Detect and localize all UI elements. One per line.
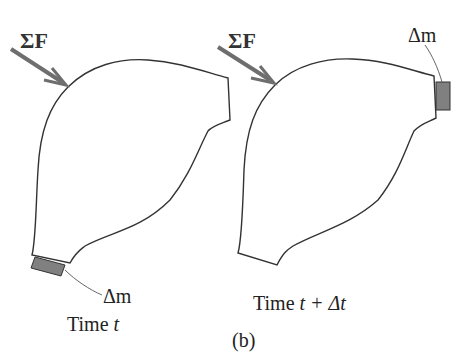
mass-label-left-text: Δm [103,285,131,307]
control-volume-diagram [0,0,467,360]
mass-leader-left [65,270,102,295]
mass-label-right-text: Δm [408,24,436,46]
time-var-left: t [114,313,120,335]
system-outline-right [238,59,436,265]
time-label-left: Time t [67,313,119,336]
time-label-right: Time t + Δt [253,292,346,315]
figure-caption: (b) [232,329,255,352]
force-arrow-left [11,49,66,85]
force-label-right: ΣF [228,28,256,54]
time-prefix-right: Time [253,292,300,314]
time-prefix-left: Time [67,313,114,335]
system-outline-left [32,60,230,263]
force-label-left: ΣF [20,28,48,54]
mass-label-left: Δm [103,285,131,308]
time-var-right: t + Δt [300,292,346,314]
mass-label-right: Δm [408,24,436,47]
mass-element-left [31,257,65,276]
mass-element-right [436,82,450,110]
